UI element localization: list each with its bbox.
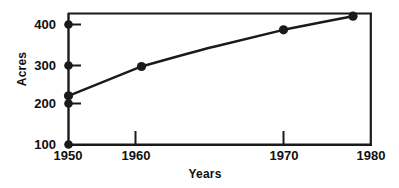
x-axis-title: Years: [155, 167, 255, 181]
data-point-1950: [64, 91, 73, 100]
x-tick-label-1950: 1950: [41, 148, 95, 163]
y-axis-title: Acres: [15, 39, 29, 99]
data-point-1970: [279, 25, 288, 34]
acres-vs-years-line-chart: 400 300 200 100 1950 1960 1970 1980 Acre…: [0, 0, 399, 188]
y-tick-label-400: 400: [14, 17, 56, 32]
x-axis-ticks: [136, 131, 284, 144]
x-tick-label-1960: 1960: [109, 148, 163, 163]
data-point-1960: [137, 62, 146, 71]
data-point-1978: [348, 12, 357, 21]
x-tick-label-1980: 1980: [344, 148, 398, 163]
plot-frame: [68, 13, 372, 146]
x-tick-label-1970: 1970: [257, 148, 311, 163]
data-series-line: [69, 16, 354, 96]
